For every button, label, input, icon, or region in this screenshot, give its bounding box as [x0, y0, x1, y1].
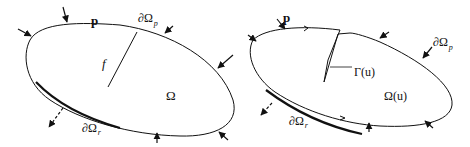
load-arrow-icon — [219, 132, 228, 140]
right-crack — [324, 30, 350, 82]
left-force-line — [108, 32, 137, 87]
left-boundary-r-label: ∂Ωr — [82, 121, 102, 137]
right-load-label: p — [283, 10, 290, 25]
left-figure: p ∂Ωp f Ω ∂Ωr — [18, 7, 234, 143]
load-arrow-icon — [63, 7, 67, 22]
right-figure: p ∂Ωp Γ(u) Ω(u) ∂Ωr — [248, 10, 453, 134]
left-domain-outline — [26, 24, 234, 137]
diagram: p ∂Ωp f Ω ∂Ωr p ∂Ωp Γ(u) Ω(u) ∂Ωr — [0, 0, 470, 147]
left-boundary-p-label: ∂Ωp — [138, 11, 158, 28]
load-arrow-icon — [423, 47, 432, 58]
load-arrow-icon — [380, 32, 389, 38]
diagram-canvas: p ∂Ωp f Ω ∂Ωr p ∂Ωp Γ(u) Ω(u) ∂Ωr — [0, 0, 470, 147]
left-force-label: f — [102, 56, 108, 71]
left-load-label: p — [91, 13, 98, 28]
left-boundary-r — [36, 82, 120, 128]
load-arrow-icon — [218, 55, 233, 68]
left-domain-label: Ω — [166, 88, 176, 103]
load-arrow-icon — [18, 29, 31, 36]
traction-free-chevron-icon — [304, 26, 308, 31]
traction-free-chevron-icon — [340, 116, 345, 120]
reaction-arrow-icon — [261, 103, 272, 115]
crack-label: Γ(u) — [354, 65, 375, 79]
reaction-arrow-icon — [49, 108, 63, 127]
right-boundary-r-label: ∂Ωr — [289, 114, 309, 130]
right-domain-label: Ω(u) — [384, 89, 407, 103]
right-boundary-p-label: ∂Ωp — [433, 35, 453, 52]
load-arrow-icon — [165, 26, 173, 33]
right-domain-outline — [250, 28, 452, 127]
